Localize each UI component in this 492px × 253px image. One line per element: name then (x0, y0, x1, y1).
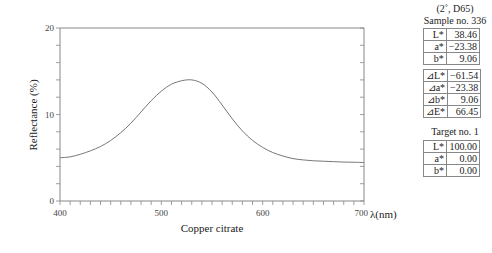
target-lab-table: L*100.00 a*0.00 b*0.00 (423, 140, 480, 177)
table-row: a*−23.38 (424, 41, 480, 53)
reflectance-chart: 40050060070001020 Reflectance (%) Copper… (0, 0, 415, 253)
reflectance-curve (60, 80, 364, 163)
plot-frame (60, 28, 364, 201)
sample-title: Sample no. 336 (418, 15, 492, 27)
table-row: b*0.00 (424, 165, 480, 177)
sample-lab-table: L*38.46 a*−23.38 b*9.06 (423, 28, 480, 65)
color-values-panel: (2˚, D65) Sample no. 336 L*38.46 a*−23.3… (418, 0, 492, 177)
target-title: Target no. 1 (418, 126, 492, 138)
y-axis-title: Reflectance (%) (27, 79, 40, 150)
svg-text:600: 600 (256, 208, 270, 218)
svg-text:700: 700 (355, 208, 369, 218)
table-row: ⊿L*−61.54 (424, 70, 481, 82)
table-row: ⊿b*9.06 (424, 94, 481, 106)
table-row: ⊿E*66.45 (424, 106, 481, 118)
table-row: L*38.46 (424, 29, 480, 41)
axis-ticks (56, 28, 364, 205)
tick-labels: 40050060070001020 (45, 23, 369, 218)
table-row: L*100.00 (424, 141, 480, 153)
table-row: a*0.00 (424, 153, 480, 165)
x-axis-title: Copper citrate (181, 222, 244, 234)
svg-text:20: 20 (45, 23, 55, 33)
svg-text:500: 500 (155, 208, 169, 218)
svg-text:400: 400 (53, 208, 67, 218)
table-row: b*9.06 (424, 53, 480, 65)
svg-text:10: 10 (45, 110, 55, 120)
conditions-label: (2˚, D65) (418, 3, 492, 15)
color-difference-table: ⊿L*−61.54 ⊿a*−23.38 ⊿b*9.06 ⊿E*66.45 (423, 69, 481, 118)
x-unit-label: λ(nm) (370, 208, 397, 221)
svg-text:0: 0 (50, 196, 55, 206)
table-row: ⊿a*−23.38 (424, 82, 481, 94)
